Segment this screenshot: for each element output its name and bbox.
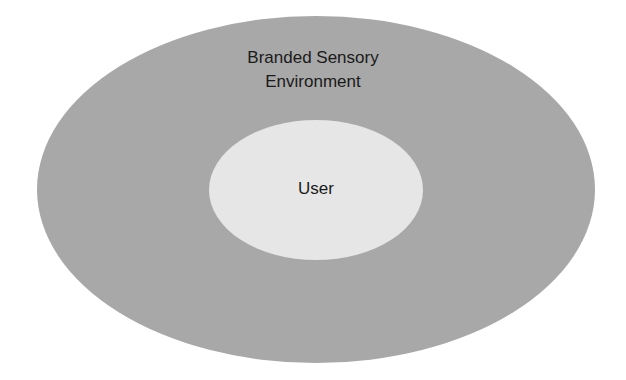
nested-ellipse-diagram: Branded Sensory Environment User xyxy=(0,0,626,380)
inner-ellipse-label: User xyxy=(209,177,423,201)
outer-ellipse-label: Branded Sensory Environment xyxy=(213,46,413,94)
outer-label-line1: Branded Sensory xyxy=(213,46,413,70)
outer-label-line2: Environment xyxy=(213,70,413,94)
